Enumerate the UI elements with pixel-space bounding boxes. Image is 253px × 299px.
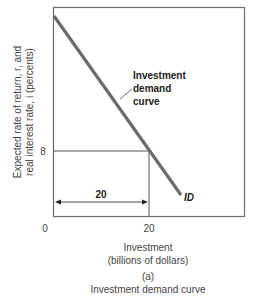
y-axis-label-line2: real interest rate, i (percents) [24, 48, 35, 176]
chart-caption: Investment demand curve [90, 284, 205, 295]
x-tick-20: 20 [143, 223, 155, 234]
annotation-leader-line [120, 89, 132, 99]
x-tick-0: 0 [42, 223, 48, 234]
arrow-label: 20 [95, 189, 107, 200]
quantity-double-arrow [55, 200, 148, 205]
x-axis-label-line2: (billions of dollars) [108, 255, 189, 266]
curve-annotation-line2: demand [133, 83, 171, 94]
curve-label-id: ID [184, 192, 194, 203]
investment-demand-curve-line [54, 16, 181, 195]
y-tick-8: 8 [40, 146, 46, 157]
panel-label: (a) [142, 271, 154, 282]
y-axis-label-line1: Expected rate of return, r, and [12, 46, 23, 178]
y-axis-label: Expected rate of return, r, and real int… [12, 46, 35, 178]
curve-annotation-line3: curve [133, 96, 160, 107]
x-axis-label-line1: Investment [124, 242, 173, 253]
curve-annotation-line1: Investment [133, 70, 186, 81]
investment-demand-chart: 20 Investment demand curve ID 8 0 20 Exp… [0, 0, 253, 299]
